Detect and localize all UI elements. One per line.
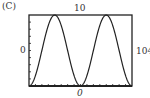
series-line-curve bbox=[29, 15, 132, 86]
chart-area bbox=[0, 0, 150, 98]
plot-frame bbox=[29, 15, 132, 86]
tick-marks bbox=[29, 22, 126, 86]
